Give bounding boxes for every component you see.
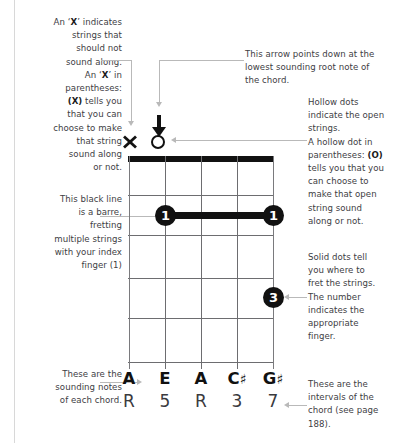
annotation-sounding-notes: These are the sounding notes of each cho… <box>22 368 122 408</box>
string-4 <box>237 156 238 369</box>
annotation-line: can choose to <box>308 175 402 188</box>
note-name-string-4: C♯ <box>223 370 251 388</box>
note-name-string-1: A <box>115 370 143 388</box>
annotation-line: or not. <box>22 161 122 174</box>
leader-arrowhead-solid-dots <box>284 294 289 300</box>
annotation-line: indicate the open <box>308 109 402 122</box>
leader-line-x-marker <box>101 60 132 61</box>
figure-page: An ‘X’ indicates strings that should not… <box>0 0 402 443</box>
annotation-line: An ‘X’ in <box>22 69 122 82</box>
annotation-line: These are the <box>22 368 122 381</box>
annotation-hollow-dots: Hollow dots indicate the open strings. A… <box>308 96 402 228</box>
annotation-line: should not <box>22 42 122 55</box>
leader-line-intervals <box>288 405 307 406</box>
annotation-line: you where to <box>308 264 402 277</box>
string-2 <box>165 156 166 369</box>
annotation-line: Solid dots tell <box>308 251 402 264</box>
chord-diagram: 1 1 3 A E A C♯ G♯ R 5 R 3 7 <box>128 112 276 382</box>
string-3 <box>201 156 202 369</box>
annotation-line: strings. <box>308 122 402 135</box>
sharp-symbol: ♯ <box>240 371 247 387</box>
note-name-string-2: E <box>151 370 179 388</box>
annotation-line: sounding notes <box>22 381 122 394</box>
leader-line-arrow <box>159 60 244 61</box>
annotation-line: parentheses: (O) <box>308 149 402 162</box>
annotation-line: that you can <box>22 108 122 121</box>
annotation-line: These are the <box>308 378 402 391</box>
annotation-line: the chord. <box>245 74 397 87</box>
annotation-line: that string <box>22 135 122 148</box>
annotation-line: lowest sounding root note of <box>245 61 397 74</box>
interval-string-5: 7 <box>259 392 287 411</box>
annotation-line: Hollow dots <box>308 96 402 109</box>
leader-line-arrow-vertical <box>159 60 160 103</box>
annotation-line: is a barre, <box>22 206 122 219</box>
note-name-string-3: A <box>187 370 215 388</box>
page-margin-rule <box>14 0 15 443</box>
interval-string-2: 5 <box>151 392 179 411</box>
annotation-line: choose to make <box>22 122 122 135</box>
annotation-line: along or not. <box>308 215 402 228</box>
interval-string-4: 3 <box>223 392 251 411</box>
finger-dot-string5-fret4: 3 <box>263 287 284 308</box>
annotation-line: of each chord. <box>22 394 122 407</box>
annotation-line: string sound <box>308 202 402 215</box>
annotation-line: 188). <box>308 418 402 431</box>
annotation-line: intervals of the <box>308 391 402 404</box>
annotation-line: with your index <box>22 246 122 259</box>
muted-string-x-icon <box>122 134 138 150</box>
string-1 <box>129 156 130 369</box>
note-name-string-5: G♯ <box>259 370 287 388</box>
annotation-line: An ‘X’ indicates <box>22 16 122 29</box>
annotation-line: (X) tells you <box>22 95 122 108</box>
sharp-symbol: ♯ <box>276 371 283 387</box>
leader-line-solid-dots <box>288 297 307 298</box>
annotation-line: make that open <box>308 188 402 201</box>
annotation-line: The number <box>308 291 402 304</box>
annotation-x-marker: An ‘X’ indicates strings that should not… <box>22 16 122 174</box>
annotation-line: A hollow dot in <box>308 136 402 149</box>
finger-dot-string5-fret1: 1 <box>263 205 284 226</box>
annotation-intervals: These are the intervals of the chord (se… <box>308 378 402 431</box>
string-5 <box>273 156 274 369</box>
annotation-line: This arrow points down at the <box>245 48 397 61</box>
finger-dot-string2-fret1: 1 <box>155 205 176 226</box>
annotation-line: finger. <box>308 330 402 343</box>
annotation-line: tells you that you <box>308 162 402 175</box>
annotation-line: parentheses: <box>22 82 122 95</box>
interval-string-3: R <box>187 392 215 411</box>
annotation-line: sound along. <box>22 56 122 69</box>
barre-bar <box>165 212 273 219</box>
interval-string-1: R <box>115 392 143 411</box>
annotation-line: strings that <box>22 29 122 42</box>
annotation-line: sound along <box>22 148 122 161</box>
root-note-down-arrow-icon <box>151 115 167 137</box>
annotation-line: fret the strings. <box>308 277 402 290</box>
annotation-line: appropriate <box>308 317 402 330</box>
annotation-solid-dots: Solid dots tell you where to fret the st… <box>308 251 402 343</box>
annotation-line: This black line <box>22 193 122 206</box>
annotation-line: fretting <box>22 219 122 232</box>
annotation-line: finger (1) <box>22 259 122 272</box>
annotation-line: multiple strings <box>22 233 122 246</box>
annotation-arrow: This arrow points down at the lowest sou… <box>245 48 397 88</box>
annotation-barre: This black line is a barre, fretting mul… <box>22 193 122 272</box>
open-string-o-icon <box>151 135 165 149</box>
annotation-line: chord (see page <box>308 404 402 417</box>
leader-arrowhead-arrow <box>156 102 162 107</box>
annotation-line: indicates the <box>308 304 402 317</box>
